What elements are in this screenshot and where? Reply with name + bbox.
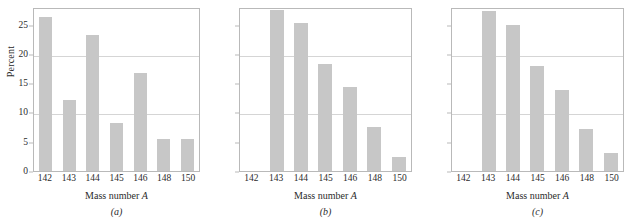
x-tick-label: 144 xyxy=(500,174,525,184)
x-tick-label: 143 xyxy=(264,174,289,184)
bar-slot xyxy=(387,9,411,171)
x-axis-ticks: 142143144145146148150 xyxy=(239,174,412,184)
bar xyxy=(157,139,170,171)
bar-slot xyxy=(501,9,525,171)
bar-slot xyxy=(264,9,288,171)
bar-slot xyxy=(240,9,264,171)
x-tick-label: 148 xyxy=(152,174,176,184)
x-tick-label: 145 xyxy=(525,174,550,184)
bar-slot xyxy=(525,9,549,171)
bar-slot xyxy=(128,9,152,171)
y-tick-label: 20 xyxy=(19,50,29,60)
y-tick-label: 20 xyxy=(225,50,235,60)
bar xyxy=(482,11,496,171)
chart-panel-c: 0510152025142143144145146148150Mass numb… xyxy=(424,0,636,222)
bar-slot xyxy=(476,9,500,171)
y-tick-label: 5 xyxy=(23,138,28,148)
x-tick-label: 143 xyxy=(57,174,81,184)
panel-subcaption: (a) xyxy=(33,206,200,217)
x-tick-label: 145 xyxy=(313,174,338,184)
y-tick-label: 15 xyxy=(19,79,29,89)
y-tick-label: 5 xyxy=(229,138,234,148)
bar xyxy=(367,127,381,172)
bar-slot xyxy=(574,9,598,171)
bar xyxy=(579,129,593,171)
x-tick-label: 146 xyxy=(550,174,575,184)
bar-slot xyxy=(105,9,129,171)
y-tick-label: 10 xyxy=(437,109,447,119)
y-tick-label: 0 xyxy=(23,167,28,177)
x-axis-ticks: 142143144145146148150 xyxy=(451,174,624,184)
x-tick-label: 145 xyxy=(105,174,129,184)
bar xyxy=(392,157,406,171)
bar xyxy=(86,35,99,171)
bar-slot xyxy=(599,9,623,171)
bar-slot xyxy=(550,9,574,171)
y-axis-ticks: 0510152025 xyxy=(424,8,451,172)
bar-chart-figure: Percent0510152025142143144145146148150Ma… xyxy=(0,0,636,222)
bar-slot xyxy=(313,9,337,171)
y-tick-label: 10 xyxy=(225,109,235,119)
y-tick-label: 5 xyxy=(441,138,446,148)
y-tick-label: 25 xyxy=(225,21,235,31)
bar xyxy=(530,66,544,171)
bar xyxy=(318,64,332,171)
x-tick-label: 142 xyxy=(33,174,57,184)
x-tick-label: 142 xyxy=(451,174,476,184)
bar xyxy=(343,87,357,171)
bar xyxy=(555,90,569,171)
chart-panel-a: Percent0510152025142143144145146148150Ma… xyxy=(0,0,212,222)
bar-slot xyxy=(81,9,105,171)
bar xyxy=(294,23,308,171)
y-axis-ticks: 0510152025 xyxy=(212,8,239,172)
y-tick-label: 15 xyxy=(437,79,447,89)
x-tick-label: 146 xyxy=(128,174,152,184)
y-tick-label: 0 xyxy=(441,167,446,177)
bar xyxy=(134,73,147,171)
y-tick-label: 25 xyxy=(19,21,29,31)
x-axis-label-text: Mass number xyxy=(85,190,142,201)
y-tick-label: 15 xyxy=(225,79,235,89)
x-tick-label: 143 xyxy=(476,174,501,184)
panel-subcaption: (c) xyxy=(451,206,624,217)
x-tick-label: 148 xyxy=(575,174,600,184)
bar xyxy=(63,100,76,171)
x-axis-label: Mass number A xyxy=(33,190,200,201)
x-tick-label: 150 xyxy=(599,174,624,184)
plot-area xyxy=(239,8,412,172)
bar xyxy=(270,10,284,171)
bar-slot xyxy=(289,9,313,171)
x-tick-label: 146 xyxy=(338,174,363,184)
x-axis-label-symbol: A xyxy=(351,190,357,201)
bar xyxy=(506,25,520,171)
x-axis-label: Mass number A xyxy=(451,190,624,201)
bar-slot xyxy=(362,9,386,171)
x-tick-label: 144 xyxy=(81,174,105,184)
panel-subcaption: (b) xyxy=(239,206,412,217)
bar xyxy=(110,123,123,171)
x-tick-label: 150 xyxy=(387,174,412,184)
x-tick-label: 150 xyxy=(176,174,200,184)
bar-slot xyxy=(452,9,476,171)
x-axis-label-text: Mass number xyxy=(506,190,563,201)
bar-slot xyxy=(58,9,82,171)
x-tick-label: 142 xyxy=(239,174,264,184)
chart-panel-b: 0510152025142143144145146148150Mass numb… xyxy=(212,0,424,222)
y-axis-ticks: 0510152025 xyxy=(0,8,33,172)
bar-series xyxy=(240,9,411,171)
bar xyxy=(604,153,618,171)
x-axis-label-symbol: A xyxy=(563,190,569,201)
x-axis-label-symbol: A xyxy=(142,190,148,201)
bar xyxy=(181,139,194,171)
y-tick-label: 25 xyxy=(437,21,447,31)
x-tick-label: 148 xyxy=(363,174,388,184)
y-tick-label: 0 xyxy=(229,167,234,177)
x-tick-label: 144 xyxy=(288,174,313,184)
bar-series xyxy=(452,9,623,171)
x-axis-label-text: Mass number xyxy=(294,190,351,201)
bar xyxy=(39,17,52,171)
y-tick-label: 20 xyxy=(437,50,447,60)
bar-slot xyxy=(34,9,58,171)
bar-slot xyxy=(175,9,199,171)
y-tick-label: 10 xyxy=(19,109,29,119)
